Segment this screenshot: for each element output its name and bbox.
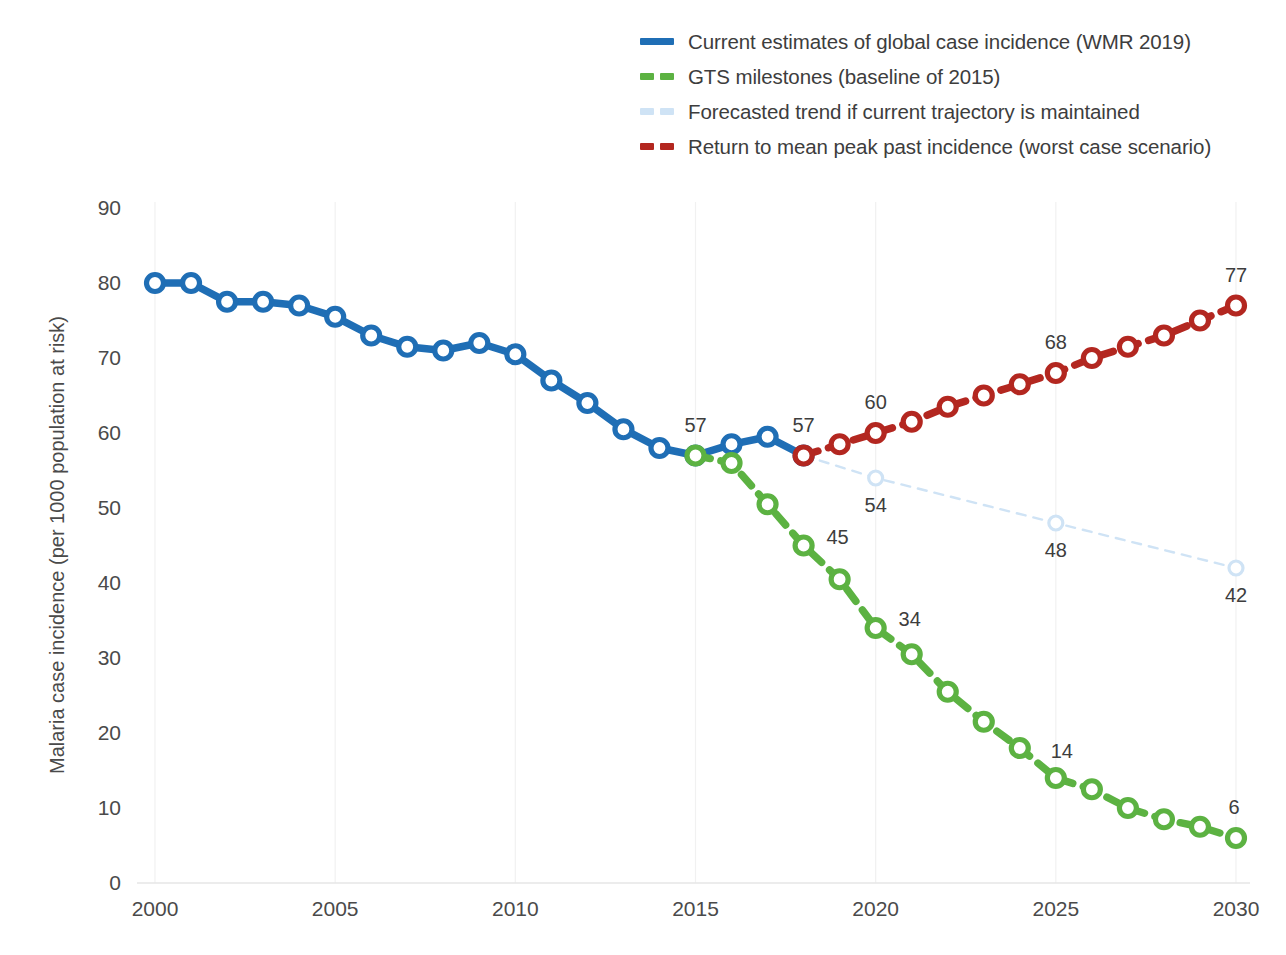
data-point-marker [1228,830,1245,847]
data-point-marker [795,537,812,554]
series-line [696,456,1237,839]
data-point-label: 54 [865,494,887,516]
data-point-marker [1155,327,1172,344]
data-point-label: 42 [1225,584,1247,606]
data-point-marker [831,571,848,588]
legend-label-forecasted-trend: Forecasted trend if current trajectory i… [688,100,1140,124]
data-point-marker [867,620,884,637]
data-point-marker [1083,781,1100,798]
data-point-marker [543,372,560,389]
chart-figure: Current estimates of global case inciden… [0,0,1286,955]
y-axis-ticks: 0102030405060708090 [98,196,121,894]
data-point-marker [687,447,704,464]
data-point-marker [579,395,596,412]
data-point-label: 34 [899,608,921,630]
series-worst-case [795,297,1244,464]
data-point-marker [363,327,380,344]
data-point-marker [831,436,848,453]
data-point-marker [219,293,236,310]
data-point-marker [1119,338,1136,355]
data-point-label: 57 [684,414,706,436]
data-point-marker [435,342,452,359]
x-axis-tick-label: 2025 [1032,897,1079,920]
y-axis-tick-label: 90 [98,196,121,219]
legend-swatch-forecasted-trend [640,108,674,115]
data-point-marker [1228,297,1245,314]
legend-label-gts-milestones: GTS milestones (baseline of 2015) [688,65,1000,89]
legend-label-current-estimates: Current estimates of global case inciden… [688,30,1191,54]
y-axis-tick-label: 20 [98,721,121,744]
data-point-marker [867,425,884,442]
data-point-marker [975,713,992,730]
x-axis-tick-label: 2000 [132,897,179,920]
series-current-estimates [147,275,813,465]
legend-item-worst-case: Return to mean peak past incidence (wors… [640,129,1260,164]
x-axis-tick-label: 2005 [312,897,359,920]
data-point-marker [291,297,308,314]
legend-label-worst-case: Return to mean peak past incidence (wors… [688,135,1211,159]
data-point-label: 60 [865,391,887,413]
data-point-marker [1155,811,1172,828]
legend-item-gts-milestones: GTS milestones (baseline of 2015) [640,59,1260,94]
data-point-marker [795,447,812,464]
legend-swatch-worst-case [640,143,674,150]
data-point-marker [759,496,776,513]
chart-point-labels: 57574534146544842606877 [684,264,1247,819]
data-point-marker [903,413,920,430]
y-axis-tick-label: 60 [98,421,121,444]
data-point-marker [1229,561,1243,575]
data-point-marker [1191,818,1208,835]
data-point-marker [723,455,740,472]
data-point-label: 14 [1051,740,1073,762]
data-point-marker [1011,740,1028,757]
data-point-marker [1047,770,1064,787]
legend-swatch-current-estimates [640,38,674,45]
data-point-marker [759,428,776,445]
x-axis-ticks: 2000200520102015202020252030 [132,897,1260,920]
y-axis-tick-label: 50 [98,496,121,519]
y-axis-tick-label: 30 [98,646,121,669]
data-point-marker [651,440,668,457]
data-point-label: 57 [792,414,814,436]
data-point-marker [1083,350,1100,367]
data-point-marker [723,436,740,453]
data-point-marker [1191,312,1208,329]
data-point-label: 45 [826,526,848,548]
y-axis-tick-label: 10 [98,796,121,819]
data-point-label: 48 [1045,539,1067,561]
y-axis-tick-label: 0 [109,871,121,894]
legend-swatch-gts-milestones [640,73,674,80]
data-point-marker [615,421,632,438]
data-point-marker [147,275,164,292]
data-point-marker [975,387,992,404]
data-point-marker [255,293,272,310]
data-point-label: 68 [1045,331,1067,353]
data-point-marker [327,308,344,325]
data-point-label: 77 [1225,264,1247,286]
data-point-marker [471,335,488,352]
data-point-marker [939,683,956,700]
x-axis-tick-label: 2030 [1213,897,1260,920]
y-axis-tick-label: 40 [98,571,121,594]
data-point-marker [1047,365,1064,382]
data-point-label: 6 [1228,796,1239,818]
data-point-marker [507,346,524,363]
x-axis-tick-label: 2010 [492,897,539,920]
data-point-marker [903,646,920,663]
y-axis-tick-label: 70 [98,346,121,369]
data-point-marker [399,338,416,355]
chart-legend: Current estimates of global case inciden… [640,24,1260,164]
x-axis-tick-label: 2015 [672,897,719,920]
data-point-marker [1119,800,1136,817]
data-point-marker [183,275,200,292]
legend-item-current-estimates: Current estimates of global case inciden… [640,24,1260,59]
data-point-marker [1011,376,1028,393]
series-gts-milestones [687,447,1245,847]
data-point-marker [1049,516,1063,530]
data-point-marker [869,471,883,485]
data-point-marker [939,398,956,415]
legend-item-forecasted-trend: Forecasted trend if current trajectory i… [640,94,1260,129]
x-axis-tick-label: 2020 [852,897,899,920]
y-axis-tick-label: 80 [98,271,121,294]
y-axis-title: Malaria case incidence (per 1000 populat… [46,316,68,774]
